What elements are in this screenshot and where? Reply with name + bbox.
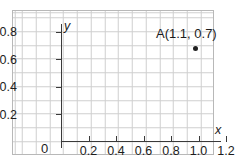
x-tick-mark-0.8 <box>171 136 172 142</box>
y-tick-mark-0.2 <box>56 114 62 115</box>
coordinate-plane-figure: 0.8 0.6 0.4 0.2 0.2 0.4 0.6 0.8 1.0 1.2 … <box>0 0 236 164</box>
x-tick-mark-0.2 <box>89 136 90 142</box>
y-tick-label-0.4: 0.4 <box>0 81 17 94</box>
x-tick-label-1.2: 1.2 <box>209 145 236 158</box>
x-tick-mark-0.4 <box>116 136 117 142</box>
y-tick-label-0.8: 0.8 <box>0 26 17 39</box>
x-tick-mark-1.0 <box>199 136 200 142</box>
origin-label: 0 <box>41 142 48 155</box>
y-axis-label: y <box>64 20 70 33</box>
data-point-a-label: A(1.1, 0.7) <box>156 27 217 40</box>
y-tick-mark-0.6 <box>56 59 62 60</box>
x-axis-label: x <box>215 124 221 137</box>
data-point-a <box>193 46 198 51</box>
y-tick-label-0.6: 0.6 <box>0 54 17 67</box>
y-tick-mark-0.8 <box>56 32 62 33</box>
x-axis-line <box>61 141 221 142</box>
x-tick-mark-0.6 <box>144 136 145 142</box>
plot-frame: 0.8 0.6 0.4 0.2 0.2 0.4 0.6 0.8 1.0 1.2 … <box>12 10 214 155</box>
x-tick-mark-1.2 <box>226 136 227 142</box>
y-tick-label-0.2: 0.2 <box>0 109 17 122</box>
y-tick-mark-0.4 <box>56 87 62 88</box>
